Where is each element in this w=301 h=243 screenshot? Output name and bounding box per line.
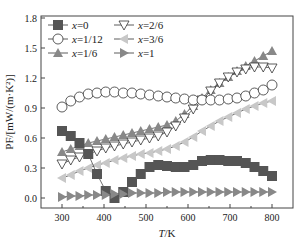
y-tick-label: 0.0 [25,193,38,204]
circle-marker [267,80,277,90]
triangle-right-marker [207,187,216,197]
triangle-left-marker [180,137,189,147]
square-marker [215,155,225,165]
x-tick-label: 400 [97,212,112,223]
triangle-right-marker [189,187,198,197]
triangle-right-marker [67,191,76,201]
triangle-right-marker [242,187,251,197]
square-marker [145,162,155,172]
triangle-right-marker [198,187,207,197]
triangle-up-marker [267,46,277,55]
triangle-left-marker [206,121,215,131]
y-tick-label: 1.2 [25,73,38,84]
square-marker [171,162,181,172]
legend-label: x=1/6 [71,47,98,59]
square-marker [162,161,172,171]
square-marker [188,160,198,170]
square-marker [75,138,85,148]
y-tick-label: 0.6 [25,133,38,144]
circle-marker [258,85,268,95]
triangle-left-marker [127,151,136,161]
x-tick-label: 700 [223,212,238,223]
x-tick-label: 500 [139,212,154,223]
square-marker [232,156,242,166]
square-marker [136,169,146,179]
triangle-left-marker [223,112,232,122]
triangle-right-marker [181,187,190,197]
legend-label: x=1 [137,47,155,59]
triangle-right-marker [137,188,146,198]
x-axis-label: T/K [158,227,175,239]
triangle-left-marker [171,141,180,151]
legend-label: x=0 [71,19,89,31]
legend-item: x=2/6 [114,19,164,31]
triangle-up-marker [258,51,268,60]
triangle-right-marker [251,187,260,197]
triangle-left-marker [145,148,154,158]
triangle-left-marker [66,170,75,180]
triangle-left-marker [197,126,206,136]
triangle-left-marker [57,173,66,183]
triangle-left-marker [75,166,84,176]
triangle-left-marker [162,144,171,154]
triangle-down-marker [171,122,181,131]
pf-vs-temperature-chart: 3004005006007008000.00.30.60.91.21.51.8 … [0,0,301,243]
square-marker [267,171,277,181]
legend-item: x=1/6 [48,47,98,59]
triangle-right-marker [84,190,93,200]
series-x-1 [58,187,277,202]
triangle-down-marker [92,147,102,156]
triangle-right-marker [216,187,225,197]
square-marker [223,156,233,166]
triangle-left-marker [258,98,267,108]
square-marker [66,131,76,141]
triangle-down-marker [101,144,111,153]
triangle-up-marker [57,147,67,156]
legend-label: x=1/12 [71,33,103,45]
y-tick-label: 0.9 [25,103,38,114]
triangle-left-marker [136,149,145,159]
triangle-down-marker [57,160,67,169]
legend-label: x=3/6 [137,33,164,45]
legend: x=0x=2/6x=1/12x=3/6x=1/6x=1 [48,19,164,59]
triangle-right-marker [233,187,242,197]
triangle-left-marker [83,163,92,173]
square-marker [153,160,163,170]
triangle-right-marker [154,188,163,198]
triangle-right-marker [128,188,137,198]
triangle-left-marker [267,96,276,106]
square-marker [53,20,63,30]
y-tick-label: 0.3 [25,163,38,174]
triangle-up-marker [66,144,76,153]
y-axis-label: PF/[mW/(m·K²)] [3,74,16,149]
legend-item: x=0 [48,19,89,31]
triangle-down-marker [267,64,277,73]
triangle-right-marker [172,187,181,197]
triangle-right-marker [268,187,277,197]
square-marker [127,177,137,187]
triangle-left-marker [119,34,128,44]
triangle-left-marker [101,158,110,168]
triangle-left-marker [188,132,197,142]
square-marker [83,149,93,159]
triangle-down-marker [162,128,172,137]
x-tick-label: 300 [55,212,70,223]
triangle-down-marker [66,156,76,165]
square-marker [197,156,207,166]
triangle-right-marker [259,187,268,197]
square-marker [206,155,216,165]
chart-root: 3004005006007008000.00.30.60.91.21.51.8 … [0,0,301,243]
x-tick-label: 600 [181,212,196,223]
square-marker [92,169,102,179]
triangle-down-marker [75,153,85,162]
triangle-right-marker [146,188,155,198]
x-tick-label: 800 [265,212,280,223]
legend-item: x=1/12 [48,33,103,45]
legend-item: x=1 [114,47,155,59]
triangle-right-marker [58,192,67,202]
legend-label: x=2/6 [137,19,164,31]
triangle-up-marker [53,48,63,57]
triangle-right-marker [76,191,85,201]
circle-marker [232,93,242,103]
y-tick-label: 1.8 [25,13,38,24]
